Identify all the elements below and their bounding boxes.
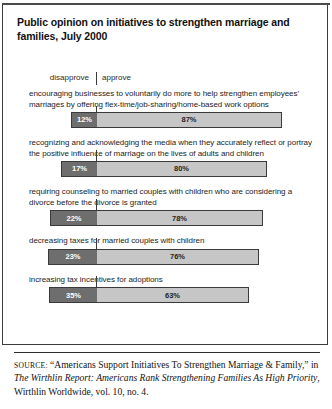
bar-value-approve: 63% — [165, 292, 180, 300]
bar-segment-disapprove[interactable]: 17% — [61, 161, 97, 177]
legend-divider-line — [96, 72, 97, 85]
bar-row: 12% 87% — [3, 112, 329, 129]
bar-value-disapprove: 22% — [66, 215, 81, 223]
bar-group: encouraging businesses to voluntarily do… — [3, 89, 329, 129]
bar-group: requiring counseling to married couples … — [3, 187, 329, 227]
bar-group-label: recognizing and acknowledging the media … — [29, 138, 319, 159]
bar-segment-approve[interactable]: 87% — [97, 112, 282, 128]
bar-value-approve: 80% — [174, 165, 189, 173]
bar-segment-disapprove[interactable]: 12% — [71, 112, 97, 128]
bar-group-label: encouraging businesses to voluntarily do… — [29, 89, 319, 110]
figure-panel: Public opinion on initiatives to strengt… — [2, 5, 328, 345]
bar-segment-disapprove[interactable]: 22% — [50, 210, 97, 226]
bar-value-disapprove: 17% — [72, 165, 87, 173]
bar-segment-disapprove[interactable]: 35% — [49, 287, 97, 303]
source-publication-title: The Wirthlin Report: Americans Rank Stre… — [14, 372, 317, 383]
bar-segment-approve[interactable]: 80% — [97, 161, 267, 177]
bar-value-approve: 78% — [172, 215, 187, 223]
bar-row: 35% 63% — [3, 287, 329, 304]
bar-row: 17% 80% — [3, 161, 329, 178]
bar-value-disapprove: 23% — [65, 253, 80, 261]
bar-group-label: decreasing taxes for married couples wit… — [29, 236, 319, 247]
source-divider-rule — [14, 352, 320, 353]
bar-group-label: increasing tax incentives for adoptions — [29, 275, 319, 286]
bar-segment-disapprove[interactable]: 23% — [48, 249, 97, 265]
figure-title: Public opinion on initiatives to strengt… — [17, 16, 313, 44]
bar-group: recognizing and acknowledging the media … — [3, 138, 329, 178]
legend: disapprove approve — [3, 73, 327, 87]
bar-segment-approve[interactable]: 76% — [97, 249, 259, 265]
bar-value-approve: 87% — [181, 116, 196, 124]
legend-label-disapprove: disapprove — [50, 73, 89, 82]
legend-label-approve: approve — [102, 73, 131, 82]
bar-value-approve: 76% — [170, 253, 185, 261]
bar-group-label: requiring counseling to married couples … — [29, 187, 319, 208]
source-label: SOURCE: — [14, 361, 50, 370]
source-note: SOURCE: “Americans Support Initiatives T… — [14, 358, 322, 398]
bar-value-disapprove: 12% — [77, 116, 92, 124]
bar-segment-approve[interactable]: 63% — [97, 287, 249, 303]
source-text-lead: “Americans Support Initiatives To Streng… — [50, 359, 318, 370]
bar-value-disapprove: 35% — [66, 292, 81, 300]
bar-group: decreasing taxes for married couples wit… — [3, 236, 329, 266]
bar-chart-plot: encouraging businesses to voluntarily do… — [3, 89, 329, 337]
bar-row: 22% 78% — [3, 210, 329, 227]
bar-row: 23% 76% — [3, 249, 329, 266]
bar-segment-approve[interactable]: 78% — [97, 210, 263, 226]
bar-group: increasing tax incentives for adoptions … — [3, 275, 329, 305]
